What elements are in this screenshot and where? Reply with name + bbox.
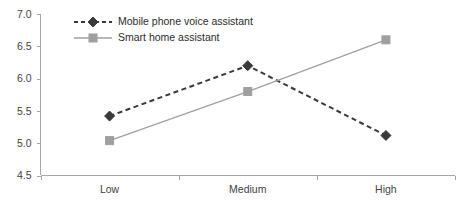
y-tick-label: 5.0 bbox=[17, 137, 32, 149]
series-layer bbox=[105, 36, 391, 145]
series-1 bbox=[105, 61, 391, 141]
series-line bbox=[110, 66, 386, 136]
data-point-marker-diamond bbox=[105, 111, 115, 121]
legend-label: Mobile phone voice assistant bbox=[118, 15, 253, 27]
data-point-marker-square bbox=[382, 36, 390, 44]
data-point-marker-diamond bbox=[381, 130, 391, 140]
series-2 bbox=[106, 36, 390, 145]
x-category-label: High bbox=[375, 183, 397, 195]
x-category-label: Medium bbox=[229, 183, 267, 195]
chart-canvas: 7.06.56.05.55.04.5 LowMediumHigh Mobile … bbox=[0, 0, 464, 206]
y-tick-label: 4.5 bbox=[17, 169, 32, 181]
y-tick-label: 5.5 bbox=[17, 105, 32, 117]
y-tick-labels: 7.06.56.05.55.04.5 bbox=[17, 8, 32, 182]
chart-legend: Mobile phone voice assistantSmart home a… bbox=[74, 15, 253, 43]
legend-item-1[interactable]: Mobile phone voice assistant bbox=[74, 15, 253, 27]
x-tick-marks bbox=[41, 176, 456, 181]
data-point-marker-square bbox=[106, 137, 114, 145]
y-tick-label: 6.5 bbox=[17, 40, 32, 52]
y-tick-label: 6.0 bbox=[17, 72, 32, 84]
legend-marker-diamond bbox=[88, 17, 98, 27]
data-point-marker-square bbox=[244, 88, 252, 96]
x-category-label: Low bbox=[100, 183, 120, 195]
legend-marker-square bbox=[89, 34, 97, 42]
legend-item-2[interactable]: Smart home assistant bbox=[74, 31, 220, 43]
y-tick-marks bbox=[37, 15, 41, 177]
legend-label: Smart home assistant bbox=[118, 31, 220, 43]
data-point-marker-diamond bbox=[243, 61, 253, 71]
x-tick-labels: LowMediumHigh bbox=[100, 183, 397, 195]
line-chart: 7.06.56.05.55.04.5 LowMediumHigh Mobile … bbox=[0, 0, 464, 206]
y-tick-label: 7.0 bbox=[17, 8, 32, 20]
